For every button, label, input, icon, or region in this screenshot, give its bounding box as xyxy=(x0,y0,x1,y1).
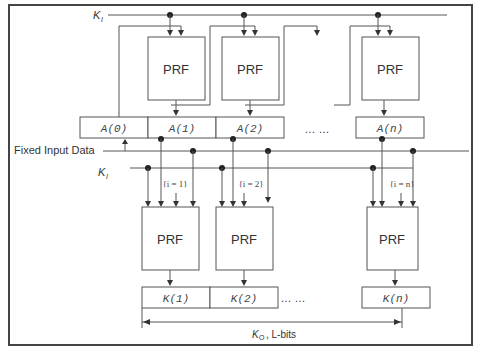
svg-text:K(1): K(1) xyxy=(163,293,189,305)
arrow-down-icon xyxy=(265,197,271,203)
arrow-down-icon xyxy=(230,201,236,207)
ellipsis-k: … … xyxy=(280,292,305,304)
arrow-down-icon xyxy=(314,30,320,36)
arrow-up-icon xyxy=(122,139,128,144)
a-register-1: A(1) xyxy=(148,117,216,138)
arrow-down-icon xyxy=(370,201,376,207)
svg-text:A(2): A(2) xyxy=(236,123,263,135)
bottom-prf-n: PRF xyxy=(367,207,418,270)
svg-text:PRF: PRF xyxy=(163,62,189,77)
svg-text:PRF: PRF xyxy=(237,62,263,77)
a-register-n: A(n) xyxy=(356,117,424,138)
counter-label-1: {i = 1} xyxy=(162,179,187,189)
bottom-prf-1: PRF xyxy=(142,207,199,270)
svg-text:K(2): K(2) xyxy=(231,293,257,305)
k-output-n: K(n) xyxy=(362,287,430,308)
a-register-2: A(2) xyxy=(216,117,284,138)
arrow-down-icon xyxy=(173,201,179,207)
top-prf-2: PRF xyxy=(222,37,279,100)
arrow-down-icon xyxy=(178,30,184,36)
arrow-left-icon xyxy=(143,319,150,325)
ki-top-label: K I xyxy=(93,9,103,23)
arrow-down-icon xyxy=(379,201,385,207)
arrow-down-icon xyxy=(167,30,173,36)
svg-text:PRF: PRF xyxy=(157,232,183,247)
top-prf-1: PRF xyxy=(148,37,205,100)
fixed-input-label: Fixed Input Data xyxy=(14,144,96,156)
arrow-down-icon xyxy=(241,280,247,286)
k-output-1: K(1) xyxy=(142,287,210,308)
svg-text:A(n): A(n) xyxy=(376,123,403,135)
top-prf-n: PRF xyxy=(362,37,419,100)
arrow-down-icon xyxy=(392,280,398,286)
arrow-down-icon xyxy=(167,280,173,286)
arrow-down-icon xyxy=(241,201,247,207)
arrow-down-icon xyxy=(398,201,404,207)
svg-text:PRF: PRF xyxy=(377,62,403,77)
svg-text:PRF: PRF xyxy=(231,232,257,247)
arrow-down-icon xyxy=(173,110,179,116)
a-register-0: A(0) xyxy=(80,117,148,138)
ki-mid-label: K I xyxy=(98,166,108,180)
ko-label: K O , L-bits xyxy=(252,329,296,341)
ellipsis-a: … … xyxy=(304,123,329,135)
svg-text:K: K xyxy=(93,9,101,21)
bottom-prf-2: PRF xyxy=(216,207,273,270)
arrow-down-icon xyxy=(158,201,164,207)
arrow-down-icon xyxy=(387,30,393,36)
arrow-down-icon xyxy=(219,201,225,207)
svg-text:A(1): A(1) xyxy=(168,123,195,135)
svg-text:I: I xyxy=(106,173,108,180)
svg-text:, L-bits: , L-bits xyxy=(266,329,296,340)
arrow-down-icon xyxy=(381,110,387,116)
arrow-down-icon xyxy=(241,30,247,36)
arrow-down-icon xyxy=(247,110,253,116)
svg-text:PRF: PRF xyxy=(379,232,405,247)
k-output-2: K(2) xyxy=(210,287,278,308)
svg-text:I: I xyxy=(101,16,103,23)
arrow-down-icon xyxy=(375,30,381,36)
svg-text:O: O xyxy=(259,334,265,341)
counter-label-n: {i = n} xyxy=(389,179,414,189)
arrow-right-icon xyxy=(394,319,401,325)
counter-label-2: {i = 2} xyxy=(238,179,263,189)
svg-text:K: K xyxy=(98,166,106,178)
arrow-down-icon xyxy=(252,30,258,36)
svg-text:K(n): K(n) xyxy=(383,293,409,305)
kdf-feedback-diagram: K I PRF PRF PRF xyxy=(0,0,480,354)
arrow-down-icon xyxy=(145,201,151,207)
arrow-down-icon xyxy=(410,201,416,207)
arrow-down-icon xyxy=(190,201,196,207)
svg-text:A(0): A(0) xyxy=(100,123,127,135)
